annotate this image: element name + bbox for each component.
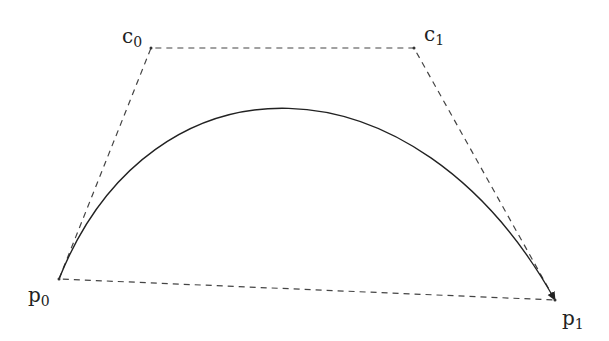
point-p0-dot bbox=[58, 278, 61, 281]
bezier-curve bbox=[59, 108, 555, 300]
point-p1-dot bbox=[554, 299, 557, 302]
label-c1: c1 bbox=[424, 24, 444, 47]
label-p1: p1 bbox=[562, 308, 584, 331]
bezier-diagram: c0 c1 p0 p1 bbox=[0, 0, 609, 341]
control-polygon bbox=[59, 48, 555, 300]
label-c0: c0 bbox=[122, 26, 142, 49]
point-c1-dot bbox=[413, 47, 416, 50]
diagram-svg bbox=[0, 0, 609, 341]
label-p0: p0 bbox=[28, 285, 50, 308]
point-c0-dot bbox=[150, 47, 153, 50]
